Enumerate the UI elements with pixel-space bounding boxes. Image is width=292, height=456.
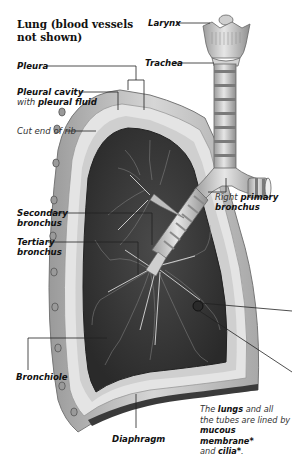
larynx: [203, 15, 250, 66]
alveolus-marker: [193, 301, 203, 311]
lung-diagram: Lung (blood vessels not shown) Pleura Pl…: [0, 0, 292, 456]
label-larynx: Larynx: [148, 18, 181, 28]
lining-note: The lungs and all the tubes are lined by…: [200, 404, 292, 456]
label-secondary-bronchus: Secondary bronchus: [17, 208, 68, 228]
label-right-primary-bronchus: Right primary bronchus: [215, 192, 278, 212]
diagram-title: Lung (blood vessels not shown): [17, 18, 133, 44]
label-cut-end-of-rib: Cut end of rib: [17, 126, 76, 136]
label-tertiary-bronchus: Tertiary bronchus: [17, 237, 62, 257]
label-pleural-cavity: Pleural cavity with pleural fluid: [17, 87, 97, 107]
label-trachea: Trachea: [145, 58, 183, 68]
trachea: [214, 64, 236, 172]
label-diaphragm: Diaphragm: [112, 434, 165, 444]
label-pleura: Pleura: [17, 61, 48, 71]
label-bronchiole: Bronchiole: [16, 372, 68, 382]
